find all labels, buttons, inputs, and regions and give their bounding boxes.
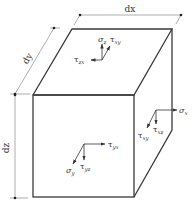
cube <box>33 29 172 197</box>
tau-yx-label: τyx <box>108 140 120 151</box>
dimension-dx: dx <box>74 4 182 25</box>
right-face-stresses: σx τxz τxy <box>138 106 188 142</box>
dimension-label-dx: dx <box>125 4 136 14</box>
front-face-edges <box>33 95 134 197</box>
right-face-edges <box>134 29 172 197</box>
sigma-z-label: σz <box>98 35 106 45</box>
sigma-x-label: σx <box>179 106 188 116</box>
tau-yz-label: τyz <box>80 162 91 173</box>
tau-zx-label: τzx <box>74 55 85 65</box>
top-face-stresses: σz τxy τzx <box>74 35 122 65</box>
dimension-label-dy: dy <box>20 51 35 66</box>
stress-element-diagram: dx dy dz σz τxy τzx <box>0 0 195 208</box>
dimension-dz: dz <box>1 94 28 200</box>
tau-xz-label: τxz <box>153 125 164 135</box>
front-face-stresses: τyx τyz σy <box>66 140 120 177</box>
tau-xy-top-label: τxy <box>110 35 122 46</box>
tau-xy-right-label: τxy <box>138 131 150 142</box>
dimension-label-dz: dz <box>1 142 11 153</box>
sigma-y-label: σy <box>66 166 75 177</box>
sigma-y-arrow <box>73 144 84 164</box>
tau-xy-top-arrow <box>102 46 110 60</box>
